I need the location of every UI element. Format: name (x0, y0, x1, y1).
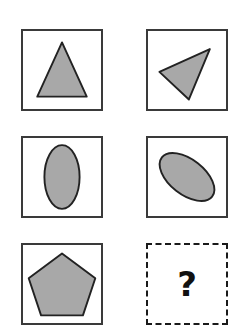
triangle-rotated-icon (148, 31, 226, 109)
matrix-cell-row2-col2[interactable] (146, 136, 228, 218)
matrix-cell-row2-col1[interactable] (21, 136, 103, 218)
puzzle-grid: ? (0, 0, 240, 329)
matrix-cell-row1-col1[interactable] (21, 29, 103, 111)
matrix-cell-row3-col2-answer-placeholder[interactable]: ? (146, 243, 228, 325)
pentagon-upright-icon (23, 245, 101, 323)
matrix-cell-row1-col2[interactable] (146, 29, 228, 111)
triangle-shape-rotated (159, 49, 209, 99)
ellipse-rotated-icon (148, 138, 226, 216)
ellipse-shape (44, 145, 79, 209)
ellipse-shape-rotated (151, 144, 223, 211)
matrix-cell-row3-col1[interactable] (21, 243, 103, 325)
pentagon-shape (29, 254, 96, 316)
ellipse-upright-icon (23, 138, 101, 216)
question-mark-placeholder: ? (148, 245, 226, 323)
triangle-upright-icon (23, 31, 101, 109)
triangle-shape (37, 42, 86, 96)
